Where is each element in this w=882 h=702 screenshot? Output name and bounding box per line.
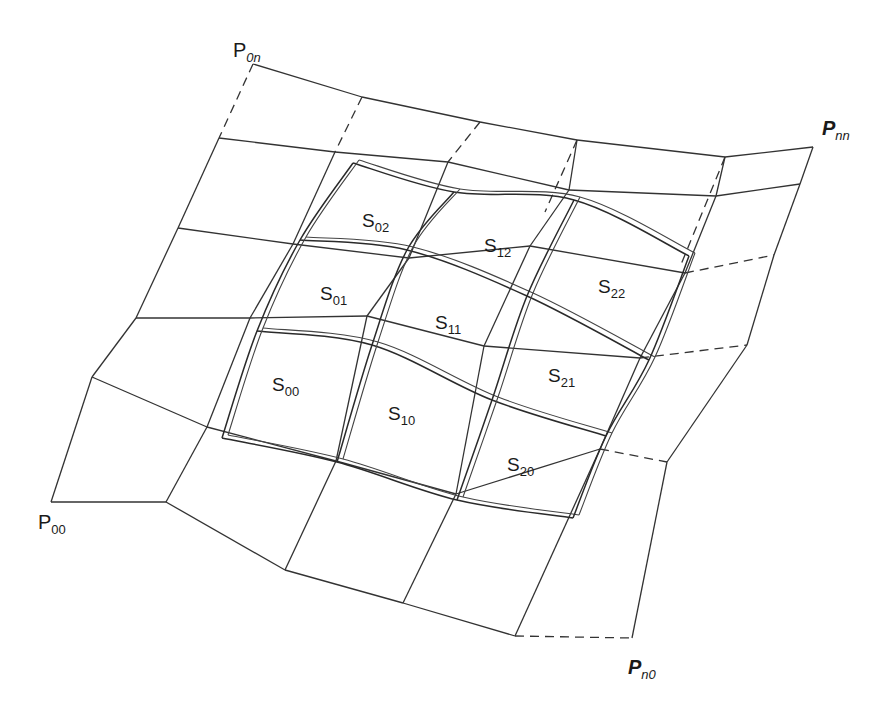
label-s22: S22 [598,277,625,296]
control-net-drawing [0,0,882,702]
label-s02: S02 [362,211,389,230]
label-s20: S20 [507,455,534,474]
label-s11: S11 [435,313,461,332]
surface-patch-diagram: P00 P0n Pnn Pn0 S00 S10 S20 S01 S11 S21 … [0,0,882,702]
label-s00: S00 [272,375,299,394]
label-pnn: Pnn [822,118,850,138]
control-grid-solid-lines [51,64,813,638]
label-p0n: P0n [233,40,261,60]
control-grid-dashed-lines [219,64,774,638]
label-s01: S01 [320,284,347,303]
label-pn0: Pn0 [628,657,656,677]
label-s12: S12 [484,236,511,255]
label-s21: S21 [548,366,575,385]
label-s10: S10 [388,404,415,423]
label-p00: P00 [38,512,66,532]
